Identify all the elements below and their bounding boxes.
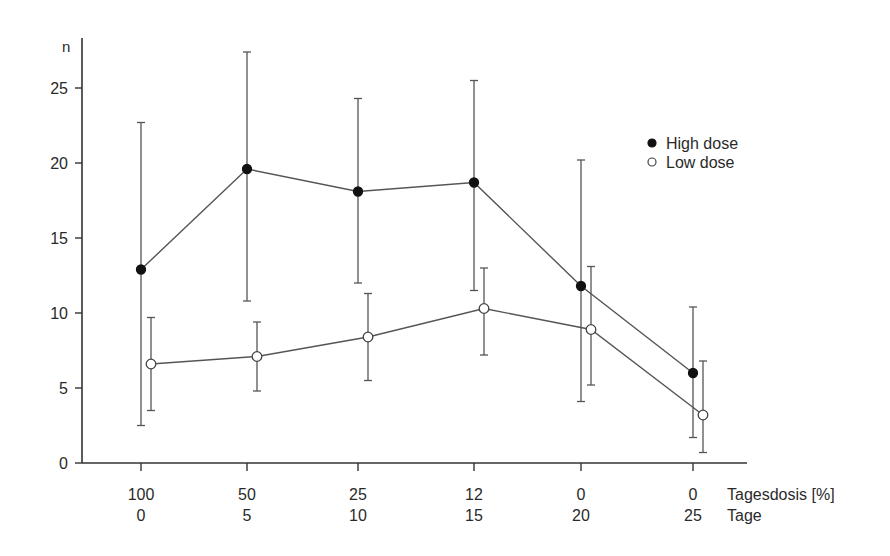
x-tick-label: 15 [465,507,483,524]
legend: High doseLow dose [648,135,738,171]
legend-marker [648,139,656,147]
x-tick-label: 25 [349,486,367,503]
x-tick-label: 5 [243,507,252,524]
y-tick-label: 25 [50,80,68,97]
y-tick-label: 0 [59,455,68,472]
series-high-dose [137,52,698,438]
axes: n0510152025100050525101215020025Tagesdos… [50,38,834,524]
series-low-dose [146,267,708,453]
x-tick-label: 100 [128,486,155,503]
data-point [586,325,596,335]
x-tick-label: 0 [137,507,146,524]
series-line [151,309,703,416]
data-point [363,332,373,342]
y-tick-label: 5 [59,380,68,397]
data-point [354,187,363,196]
x-tick-label: 0 [689,486,698,503]
x-tick-label: 0 [577,486,586,503]
x-row-label: Tagesdosis [%] [727,486,835,503]
y-tick-label: 15 [50,230,68,247]
chart: n0510152025100050525101215020025Tagesdos… [0,0,890,556]
x-tick-label: 25 [684,507,702,524]
series-line [141,169,693,373]
legend-label: Low dose [666,154,735,171]
series-layer [137,52,708,453]
data-point [470,178,479,187]
legend-marker [648,158,656,166]
y-tick-label: 10 [50,305,68,322]
data-point [479,304,489,314]
x-tick-label: 12 [465,486,483,503]
data-point [252,352,262,362]
data-point [137,265,146,274]
data-point [577,282,586,291]
y-tick-label: 20 [50,155,68,172]
data-point [689,369,698,378]
data-point [243,165,252,174]
x-tick-label: 10 [349,507,367,524]
x-tick-label: 20 [572,507,590,524]
data-point [698,410,708,420]
x-row-label: Tage [727,507,762,524]
y-axis-label: n [62,38,70,55]
legend-label: High dose [666,135,738,152]
x-tick-label: 50 [238,486,256,503]
data-point [146,359,156,369]
